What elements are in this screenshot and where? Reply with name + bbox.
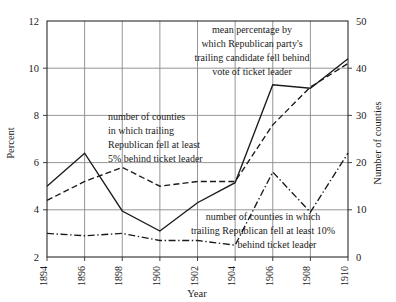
y2-axis-tick-label: 0 xyxy=(356,252,361,263)
x-axis-tick-label: 1910 xyxy=(339,266,350,286)
annotation-counties-5-percent-line-1: number of counties xyxy=(108,111,185,122)
annotation-mean-percentage: mean percentage by which Republican part… xyxy=(194,24,309,77)
y2-axis-tick-label: 40 xyxy=(356,63,367,74)
y2-axis-tick-label: 30 xyxy=(356,110,367,121)
y2-axis-tick-label: 10 xyxy=(356,204,367,215)
annotation-counties-10-percent-line-2: trailing Republican fell at least 10% xyxy=(191,225,335,236)
line-chart-canvas: 24681012 01020304050 1894189618981900190… xyxy=(0,0,396,302)
annotation-mean-percentage-line-2: which Republican party's xyxy=(201,38,302,49)
x-axis-tick-label: 1908 xyxy=(301,266,312,286)
x-axis-ticks: 189418961898190019021904190619081910 xyxy=(38,257,350,286)
y-axis-tick-label: 4 xyxy=(34,204,40,215)
y-axis-tick-label: 2 xyxy=(34,252,39,263)
x-axis-tick-label: 1902 xyxy=(189,266,200,286)
annotation-counties-10-percent: number of counties in which trailing Rep… xyxy=(191,211,335,250)
x-axis-tick-label: 1896 xyxy=(76,266,87,286)
right-axis-ticks: 01020304050 xyxy=(348,16,367,263)
y-axis-tick-label: 6 xyxy=(34,157,39,168)
annotation-counties-5-percent-line-2: in which trailing xyxy=(108,125,174,136)
x-axis-tick-label: 1894 xyxy=(38,266,49,286)
x-axis-tick-label: 1904 xyxy=(226,266,237,286)
y2-axis-tick-label: 20 xyxy=(356,157,367,168)
annotation-counties-5-percent-line-4: 5% behind ticket leader xyxy=(108,153,203,164)
x-axis-title: Year xyxy=(187,288,207,299)
annotation-counties-10-percent-line-1: number of counties in which xyxy=(206,211,320,222)
x-axis-tick-label: 1898 xyxy=(113,266,124,286)
chart-figure: 24681012 01020304050 1894189618981900190… xyxy=(0,0,396,302)
left-axis-ticks: 24681012 xyxy=(29,16,48,263)
x-axis-tick-label: 1906 xyxy=(264,266,275,286)
y-axis-tick-label: 10 xyxy=(29,63,40,74)
annotation-mean-percentage-line-3: trailing candidate fell behind xyxy=(194,52,309,63)
y2-axis-tick-label: 50 xyxy=(356,16,367,27)
annotation-counties-10-percent-line-3: behind ticket leader xyxy=(238,239,318,250)
y-axis-tick-label: 8 xyxy=(34,110,39,121)
x-axis-tick-label: 1900 xyxy=(151,266,162,286)
annotation-counties-5-percent-line-3: Republican fell at least xyxy=(108,139,200,150)
annotation-mean-percentage-line-1: mean percentage by xyxy=(212,24,292,35)
y2-axis-title: Number of counties xyxy=(372,101,383,184)
annotation-mean-percentage-line-4: vote of ticket leader xyxy=(212,66,292,77)
y-axis-tick-label: 12 xyxy=(29,16,40,27)
y-axis-title: Percent xyxy=(5,127,16,159)
